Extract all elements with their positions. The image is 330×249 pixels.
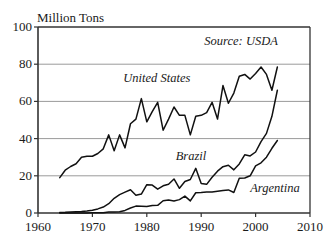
x-axis-tick-label: 2000 xyxy=(234,220,278,233)
y-axis-tick-label: 60 xyxy=(0,94,32,107)
y-axis-tick-label: 100 xyxy=(0,20,32,33)
series-line-united-states xyxy=(60,67,278,178)
x-axis-tick-label: 1960 xyxy=(16,220,60,233)
y-axis-tick-label: 40 xyxy=(0,132,32,145)
x-axis-tick-label: 2010 xyxy=(288,220,330,233)
y-axis-tick-label: 80 xyxy=(0,57,32,70)
y-axis-tick-label: 0 xyxy=(0,206,32,219)
x-axis-tick-label: 1980 xyxy=(125,220,169,233)
chart-plot-area xyxy=(0,0,330,249)
series-line-brazil xyxy=(60,90,278,212)
x-axis-tick-label: 1970 xyxy=(70,220,114,233)
chart-figure: Million Tons Source: USDA United States … xyxy=(0,0,330,249)
y-axis-tick-label: 20 xyxy=(0,169,32,182)
series-line-argentina xyxy=(60,140,278,213)
x-axis-tick-label: 1990 xyxy=(179,220,223,233)
